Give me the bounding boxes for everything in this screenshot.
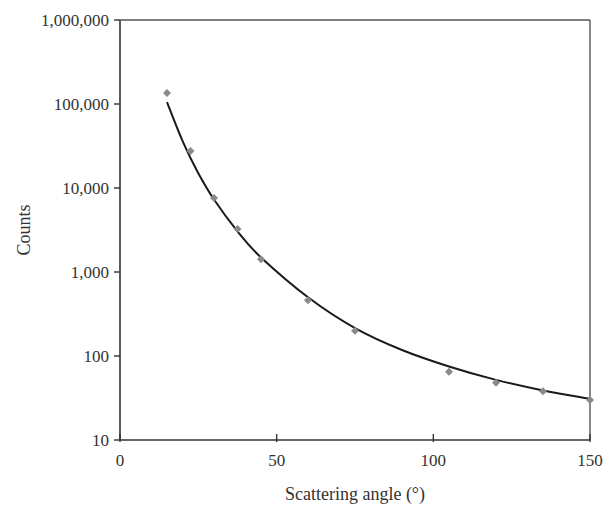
x-tick-label: 150 xyxy=(577,451,603,470)
y-axis-ticks: 101001,00010,000100,0001,000,000 xyxy=(41,11,120,450)
x-tick-label: 100 xyxy=(421,451,447,470)
data-point-diamond xyxy=(586,396,594,404)
data-markers xyxy=(163,89,594,404)
y-tick-label: 10,000 xyxy=(62,179,109,198)
plot-frame xyxy=(120,20,590,440)
data-point-diamond xyxy=(257,255,265,263)
y-tick-label: 1,000 xyxy=(71,263,109,282)
data-point-diamond xyxy=(163,89,171,97)
y-tick-label: 100,000 xyxy=(54,95,109,114)
data-point-diamond xyxy=(304,296,312,304)
data-point-diamond xyxy=(234,225,242,233)
fit-curve xyxy=(167,102,590,399)
data-point-diamond xyxy=(539,387,547,395)
data-point-diamond xyxy=(351,327,359,335)
y-tick-label: 1,000,000 xyxy=(41,11,109,30)
y-tick-label: 10 xyxy=(92,431,109,450)
x-axis-title: Scattering angle (°) xyxy=(285,484,425,505)
chart: 101001,00010,000100,0001,000,000 0501001… xyxy=(0,0,613,526)
y-tick-label: 100 xyxy=(84,347,110,366)
x-tick-label: 50 xyxy=(268,451,285,470)
data-point-diamond xyxy=(445,368,453,376)
y-axis-title: Counts xyxy=(14,204,34,255)
x-tick-label: 0 xyxy=(116,451,125,470)
